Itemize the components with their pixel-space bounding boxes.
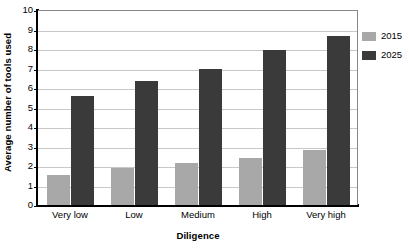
bar-chart: Average number of tools used 01234567891… <box>0 0 409 249</box>
y-tick-mark <box>34 206 38 207</box>
y-tick-label: 3 <box>28 142 33 152</box>
legend-label: 2025 <box>381 50 402 60</box>
bar-2025-high[interactable] <box>263 50 286 205</box>
bar-group <box>111 11 158 205</box>
legend-swatch-icon <box>362 32 376 41</box>
bar-2025-low[interactable] <box>135 81 158 205</box>
x-tick-label: High <box>252 208 272 222</box>
bar-group <box>175 11 222 205</box>
legend-swatch-icon <box>362 51 376 60</box>
bar-group <box>239 11 286 205</box>
bar-group <box>47 11 94 205</box>
x-tick-label: Very low <box>52 208 88 222</box>
bar-2015-medium[interactable] <box>175 163 198 205</box>
y-tick-label: 5 <box>28 103 33 113</box>
y-tick-label: 10 <box>22 5 33 15</box>
x-axis-tick-labels: Very lowLowMediumHighVery high <box>38 208 358 224</box>
y-axis-title: Average number of tools used <box>0 0 16 205</box>
y-tick-label: 1 <box>28 181 33 191</box>
x-tick-label: Very high <box>306 208 346 222</box>
bar-2015-low[interactable] <box>111 168 134 205</box>
y-tick-label: 7 <box>28 64 33 74</box>
plot-area <box>38 10 358 205</box>
bar-2015-very-high[interactable] <box>303 150 326 205</box>
bar-group <box>303 11 350 205</box>
bar-2025-medium[interactable] <box>199 69 222 206</box>
bar-2015-very-low[interactable] <box>47 175 70 205</box>
x-tick-label: Low <box>125 208 142 222</box>
x-tick-label: Medium <box>181 208 215 222</box>
legend-item-2025[interactable]: 2025 <box>362 47 408 63</box>
y-tick-label: 2 <box>28 161 33 171</box>
y-axis-tick-labels: 012345678910 <box>17 10 36 205</box>
legend-item-2015[interactable]: 2015 <box>362 28 408 44</box>
y-tick-label: 0 <box>28 200 33 210</box>
y-tick-label: 8 <box>28 44 33 54</box>
bar-2025-very-high[interactable] <box>327 36 350 205</box>
x-axis-title: Diligence <box>38 230 358 241</box>
y-tick-label: 6 <box>28 83 33 93</box>
bar-2015-high[interactable] <box>239 158 262 205</box>
y-tick-label: 9 <box>28 25 33 35</box>
y-axis-title-text: Average number of tools used <box>3 33 14 172</box>
legend: 20152025 <box>362 28 408 66</box>
legend-label: 2015 <box>381 31 402 41</box>
bars-layer <box>38 11 357 205</box>
y-tick-label: 4 <box>28 122 33 132</box>
bar-2025-very-low[interactable] <box>71 96 94 205</box>
